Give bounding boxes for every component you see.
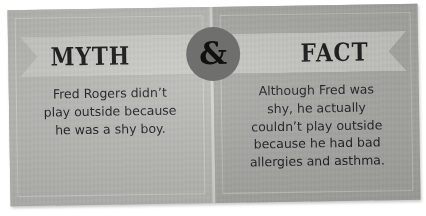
myth-banner-label: MYTH [50,43,130,69]
myth-body-text: Fred Rogers didn’t play outside because … [23,83,198,139]
card-rotor: MYTH Fred Rogers didn’t play outside bec… [7,4,420,206]
myth-fact-card: MYTH Fred Rogers didn’t play outside bec… [7,4,420,206]
fact-body-text: Although Fred was shy, he actually could… [228,80,406,172]
myth-fact-graphic: MYTH Fred Rogers didn’t play outside bec… [0,0,426,216]
fact-banner: FACT [211,31,407,74]
myth-banner: MYTH [20,34,213,77]
fact-panel: FACT Although Fred was shy, he actually … [212,4,420,203]
ampersand-glyph: & [199,37,227,68]
myth-panel: MYTH Fred Rogers didn’t play outside bec… [7,7,215,206]
fact-banner-label: FACT [301,39,369,65]
